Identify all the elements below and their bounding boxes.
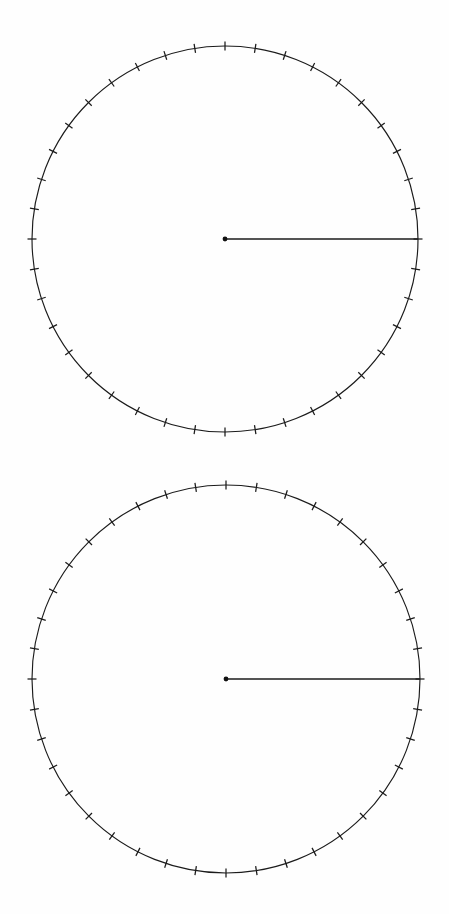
angle-circles-figure [0,0,449,914]
tick-mark [254,425,255,434]
tick-mark [65,790,72,795]
tick-mark [337,518,342,525]
tick-mark [135,407,139,415]
worksheet-page [0,0,449,914]
tick-mark [30,268,39,269]
tick-mark [109,392,114,399]
tick-mark [30,709,39,710]
tick-mark [393,325,401,329]
tick-mark [336,79,341,86]
tick-mark [30,208,39,209]
tick-mark [256,866,257,875]
tick-mark [195,483,196,492]
center-dot [223,237,228,242]
tick-mark [194,425,195,434]
tick-mark [49,589,57,593]
tick-mark [49,325,57,329]
tick-mark [312,502,316,510]
tick-mark [413,648,422,649]
tick-mark [49,765,57,769]
circle-diagram-bottom [28,481,425,878]
tick-mark [109,79,114,86]
tick-mark [254,44,255,53]
tick-mark [311,63,315,71]
tick-mark [395,765,403,769]
tick-mark [337,832,342,839]
tick-mark [194,44,195,53]
tick-mark [393,149,401,153]
tick-mark [49,149,57,153]
tick-mark [135,63,139,71]
tick-mark [395,589,403,593]
tick-mark [411,208,420,209]
tick-mark [413,709,422,710]
tick-mark [109,832,114,839]
tick-mark [379,790,386,795]
tick-mark [378,350,385,355]
tick-mark [109,518,114,525]
tick-mark [65,123,72,128]
circle-diagram-top [28,42,423,437]
tick-mark [65,350,72,355]
tick-mark [379,562,386,567]
center-dot [224,677,229,682]
tick-mark [30,648,39,649]
tick-mark [256,483,257,492]
tick-mark [136,502,140,510]
tick-mark [336,392,341,399]
tick-mark [136,848,140,856]
tick-mark [195,866,196,875]
tick-mark [312,848,316,856]
tick-mark [411,268,420,269]
tick-mark [65,562,72,567]
tick-mark [311,407,315,415]
tick-mark [378,123,385,128]
